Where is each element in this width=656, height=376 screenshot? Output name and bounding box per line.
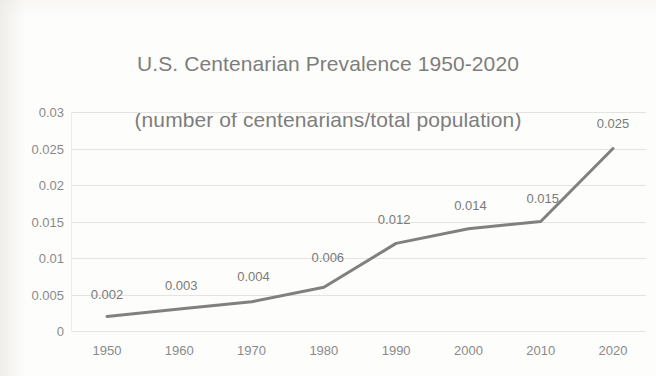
- x-axis-tick-label: 1990: [366, 344, 426, 358]
- y-axis-tick-label: 0.015: [10, 216, 64, 229]
- x-axis-tick-label: 2010: [511, 344, 571, 358]
- data-point-label: 0.014: [435, 199, 505, 213]
- gridline: [71, 112, 646, 113]
- gridline: [71, 185, 646, 186]
- y-axis-tick-label: 0: [10, 325, 64, 338]
- x-axis-tick-label: 1960: [149, 344, 209, 358]
- y-axis-tick-labels: 00.0050.010.0150.020.0250.03: [6, 112, 64, 331]
- data-point-label: 0.004: [219, 270, 289, 284]
- x-axis-tick-label: 1950: [77, 344, 137, 358]
- x-axis-tick-label: 1980: [294, 344, 354, 358]
- data-point-label: 0.025: [578, 117, 648, 131]
- y-axis-tick-label: 0.01: [10, 252, 64, 265]
- gridline: [71, 149, 646, 150]
- data-point-label: 0.006: [293, 251, 363, 265]
- y-axis-tick-label: 0.005: [10, 289, 64, 302]
- x-axis-tick-labels: 19501960197019801990200020102020: [0, 344, 656, 362]
- y-axis-tick-label: 0.025: [10, 143, 64, 156]
- x-axis-tick-label: 2020: [583, 344, 643, 358]
- gridline: [71, 331, 646, 332]
- data-point-label: 0.003: [146, 279, 216, 293]
- gridline: [71, 295, 646, 296]
- x-axis-tick-label: 1970: [222, 344, 282, 358]
- chart-screenshot: U.S. Centenarian Prevalence 1950-2020 (n…: [0, 0, 656, 376]
- data-point-label: 0.002: [72, 288, 142, 302]
- chart-title-line-1: U.S. Centenarian Prevalence 1950-2020: [137, 52, 519, 75]
- data-point-label: 0.015: [508, 192, 578, 206]
- x-axis-tick-label: 2000: [438, 344, 498, 358]
- data-point-label: 0.012: [359, 213, 429, 227]
- y-axis-tick-label: 0.02: [10, 179, 64, 192]
- y-axis-tick-label: 0.03: [10, 106, 64, 119]
